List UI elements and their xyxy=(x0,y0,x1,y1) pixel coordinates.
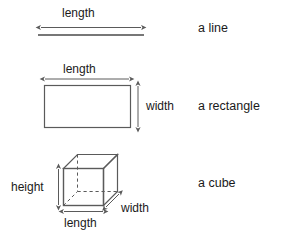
line-diagram xyxy=(38,28,144,36)
cube-length-label: length xyxy=(64,216,97,230)
rectangle-shape xyxy=(45,86,131,128)
cube-diagram xyxy=(59,155,120,212)
geometry-dimensions-figure: length a line length width a rectangle h… xyxy=(0,0,281,233)
cube-top-face xyxy=(64,155,118,169)
cube-caption: a cube xyxy=(198,176,236,191)
rectangle-length-label: length xyxy=(63,62,96,76)
rectangle-diagram xyxy=(45,79,139,128)
rectangle-caption: a rectangle xyxy=(198,99,260,114)
line-length-label: length xyxy=(62,6,95,20)
cube-width-label: width xyxy=(121,201,149,215)
shapes-layer xyxy=(0,0,281,233)
line-caption: a line xyxy=(198,21,228,36)
rectangle-width-label: width xyxy=(146,99,174,113)
cube-hidden-edge-diagonal xyxy=(64,192,78,206)
cube-height-label: height xyxy=(11,180,44,194)
